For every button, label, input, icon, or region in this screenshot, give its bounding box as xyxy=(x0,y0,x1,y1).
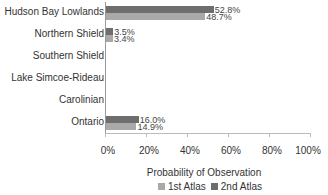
x-tick xyxy=(228,133,229,137)
category-label: Northern Shield xyxy=(35,28,104,39)
x-axis xyxy=(105,133,310,134)
legend-item-2nd-atlas: 2nd Atlas xyxy=(211,181,262,192)
bar-value-label: 14.9% xyxy=(137,123,163,131)
category-label: Southern Shield xyxy=(33,50,104,61)
bar xyxy=(106,116,139,123)
x-tick-label: 60% xyxy=(221,145,241,156)
x-tick xyxy=(269,133,270,137)
bar xyxy=(106,6,214,13)
category-label: Ontario xyxy=(71,116,104,127)
x-tick-label: 80% xyxy=(262,145,282,156)
x-tick-label: 0% xyxy=(101,145,115,156)
bar xyxy=(106,123,136,130)
category-label: Carolinian xyxy=(59,94,104,105)
x-tick xyxy=(187,133,188,137)
x-tick-label: 20% xyxy=(139,145,159,156)
x-tick xyxy=(146,133,147,137)
category-label: Lake Simcoe-Rideau xyxy=(11,72,104,83)
bar-value-label: 3.4% xyxy=(114,35,135,43)
legend: 1st Atlas 2nd Atlas xyxy=(158,181,262,192)
bar-value-label: 48.7% xyxy=(206,13,232,21)
legend-swatch-icon xyxy=(158,183,165,190)
legend-item-1st-atlas: 1st Atlas xyxy=(158,181,206,192)
x-axis-title: Probability of Observation xyxy=(0,167,328,178)
bar xyxy=(106,13,205,20)
x-tick xyxy=(310,133,311,137)
x-tick-label: 40% xyxy=(180,145,200,156)
bar xyxy=(106,28,113,35)
y-axis xyxy=(105,2,106,134)
legend-swatch-icon xyxy=(211,183,218,190)
bar xyxy=(106,35,113,42)
x-tick xyxy=(105,133,106,137)
category-label: Hudson Bay Lowlands xyxy=(4,6,104,17)
x-tick-label: 100% xyxy=(295,145,321,156)
